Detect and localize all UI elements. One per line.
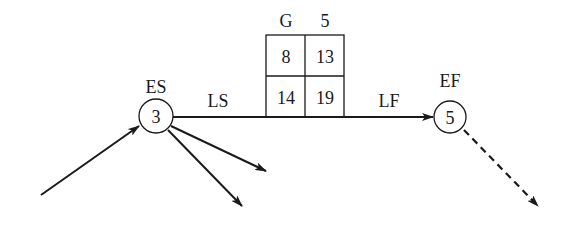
dashed-outgoing-arrow <box>464 130 538 206</box>
activity-name: G <box>280 11 293 31</box>
start-node: 3 <box>139 99 173 133</box>
network-diagram: 3 ES LS LF 8 13 14 19 G 5 5 EF <box>0 0 561 229</box>
late-finish-label: LF <box>378 91 399 111</box>
late-finish-value: 19 <box>316 88 334 108</box>
incoming-arrow <box>41 126 139 195</box>
start-node-number: 3 <box>152 107 161 127</box>
activity-duration: 5 <box>321 11 330 31</box>
end-node-number: 5 <box>446 108 455 128</box>
late-start-value: 14 <box>277 88 295 108</box>
activity-box: 8 13 14 19 <box>266 35 344 117</box>
start-node-label: ES <box>145 77 166 97</box>
early-finish-value: 13 <box>316 47 334 67</box>
early-start-value: 8 <box>282 47 291 67</box>
end-node: 5 <box>434 101 466 133</box>
end-node-label: EF <box>439 71 460 91</box>
late-start-label: LS <box>207 91 228 111</box>
